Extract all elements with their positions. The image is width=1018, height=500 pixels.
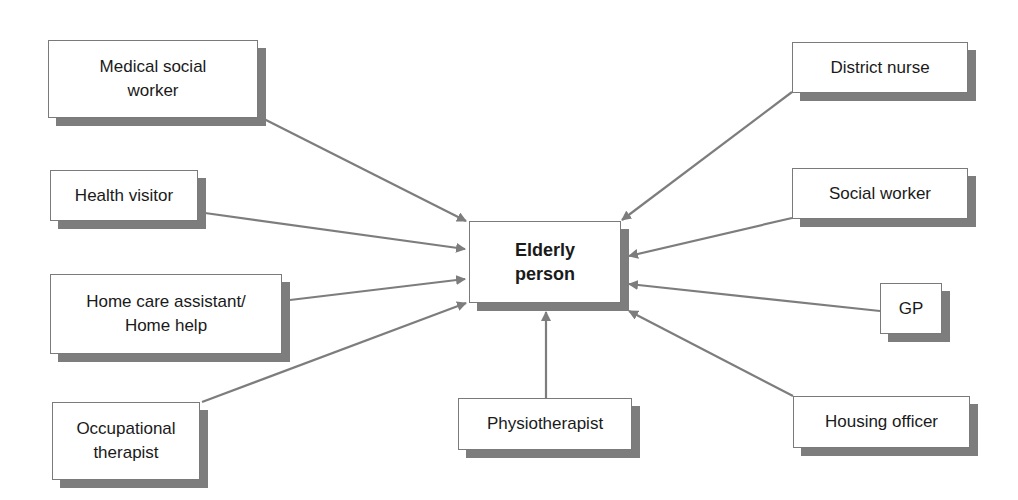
node-label: District nurse [830, 56, 929, 80]
arrow-district-nurse [622, 92, 792, 220]
node-label: Home care assistant/ Home help [86, 290, 246, 338]
node-medical-social-worker: Medical social worker [48, 40, 258, 118]
node-label: Elderly person [515, 238, 575, 286]
arrow-health-visitor [205, 213, 465, 249]
arrow-gp [629, 284, 880, 311]
arrow-social-worker [629, 218, 792, 256]
node-label: Social worker [829, 182, 931, 206]
node-occupational-therapist: Occupational therapist [52, 402, 200, 480]
node-housing-officer: Housing officer [793, 396, 970, 448]
node-social-worker: Social worker [792, 168, 968, 219]
arrow-home-care-assistant [290, 279, 465, 300]
node-health-visitor: Health visitor [50, 170, 198, 221]
node-physiotherapist: Physiotherapist [458, 398, 632, 450]
node-label: Health visitor [75, 184, 173, 208]
node-label: Medical social worker [100, 55, 207, 103]
node-gp: GP [880, 283, 942, 334]
node-label: GP [899, 297, 924, 321]
node-home-care-assistant: Home care assistant/ Home help [50, 274, 282, 354]
node-label: Physiotherapist [487, 412, 603, 436]
arrow-housing-officer [629, 311, 793, 396]
arrow-medical-social-worker [262, 118, 466, 221]
node-district-nurse: District nurse [792, 42, 968, 93]
node-label: Occupational therapist [76, 417, 175, 465]
node-elderly-person: Elderly person [469, 221, 621, 303]
node-label: Housing officer [825, 410, 938, 434]
